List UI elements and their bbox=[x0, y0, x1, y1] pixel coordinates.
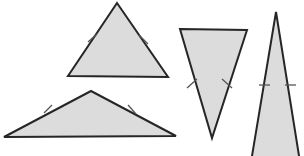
figure-canvas bbox=[0, 0, 304, 156]
triangles-figure bbox=[0, 0, 304, 156]
